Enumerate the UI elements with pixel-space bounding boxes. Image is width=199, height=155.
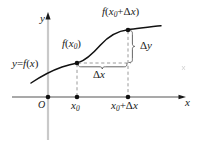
label-tick-x0: x0 <box>71 100 80 112</box>
label-subscript-zero: 0 <box>76 104 80 113</box>
point-origin <box>46 95 51 100</box>
label-delta-glyph: Δ <box>124 5 131 17</box>
delta-y-brace <box>129 31 135 63</box>
point-on-curve-x0 <box>75 61 80 66</box>
label-y-axis: y <box>40 13 45 24</box>
label-f-of-x0-plus-delta-x: f(x0+Δx) <box>102 6 139 18</box>
label-delta-glyph: Δ <box>126 99 133 111</box>
label-tick-x0-plus-delta-x: x0+Δx <box>111 100 138 112</box>
label-paren-close: ) <box>77 37 81 49</box>
label-delta-y: Δy <box>140 40 152 51</box>
label-curve-equation: y=f(x) <box>12 58 38 69</box>
stray-mark <box>182 66 185 70</box>
label-f-of-x0: f(x0) <box>62 38 81 50</box>
y-axis-arrow-icon <box>45 12 50 20</box>
point-on-curve-x0-dx <box>126 28 131 33</box>
label-paren-close: ) <box>35 57 39 69</box>
label-x-glyph: x <box>100 68 105 80</box>
label-x-axis: x <box>185 97 190 108</box>
label-delta-x: Δx <box>93 69 105 80</box>
label-delta-x-var: x <box>133 99 138 111</box>
label-y-glyph: y <box>147 39 152 51</box>
label-paren-close: ) <box>136 5 140 17</box>
label-origin: O <box>38 100 45 110</box>
function-increment-figure: f(x0+Δx) f(x0) y=f(x) Δy Δx y x O x0 x0+… <box>0 0 199 155</box>
